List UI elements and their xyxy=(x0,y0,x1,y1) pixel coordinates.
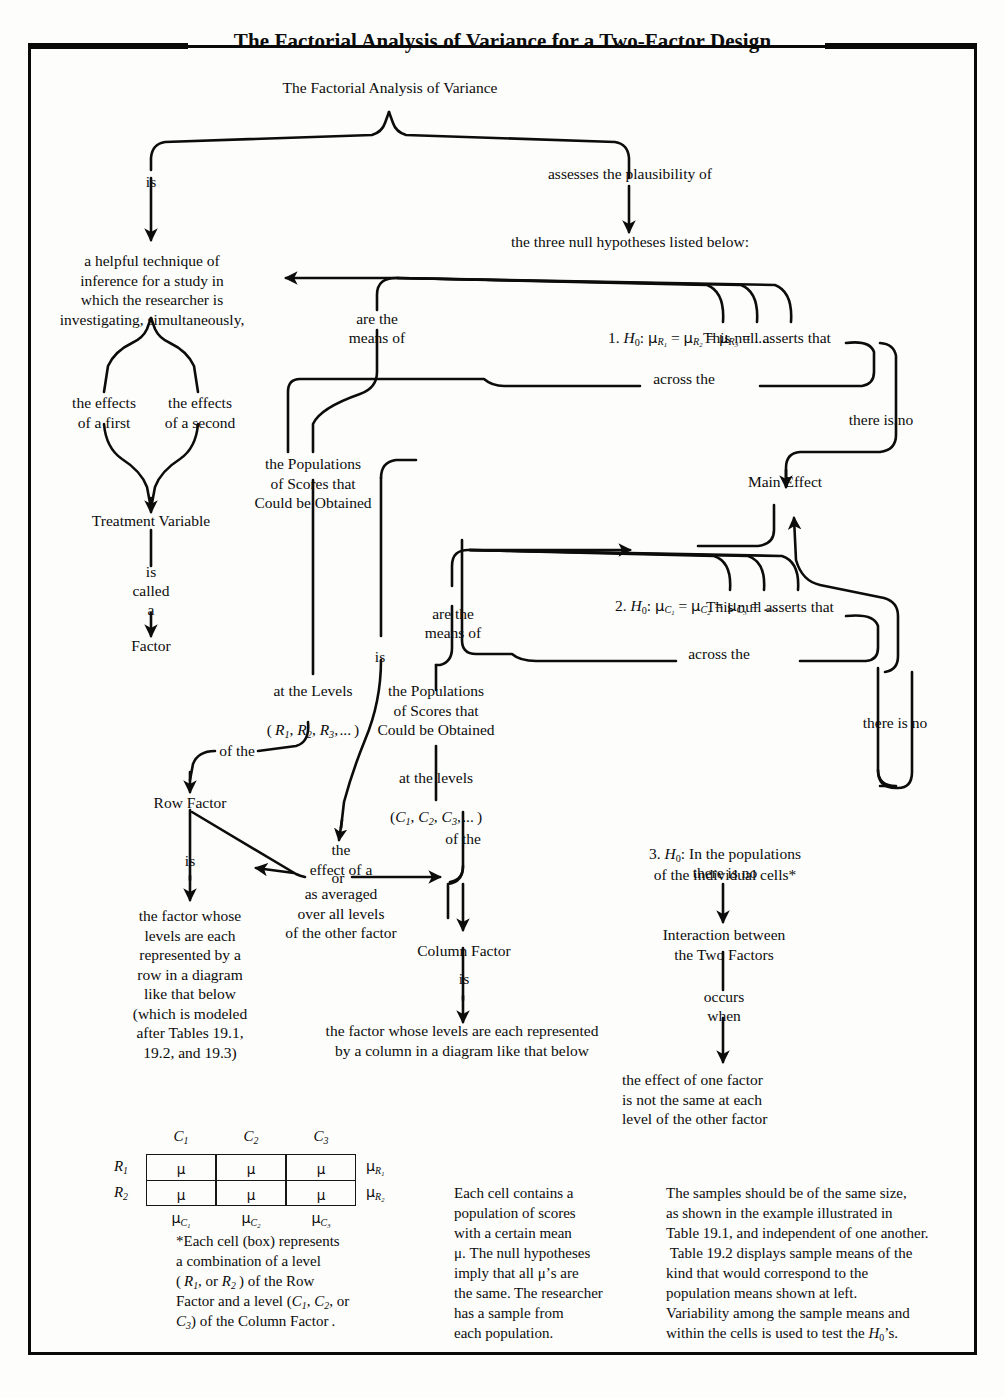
hypothesis-1-number: 1. xyxy=(608,329,624,346)
label-is-called-a: is called a xyxy=(126,563,176,620)
table-col-header-c3: C3 xyxy=(286,1128,356,1146)
node-root-label: The Factorial Analysis of Variance xyxy=(265,78,515,98)
node-as-averaged: as averaged over all levels of the other… xyxy=(270,884,412,943)
label-across-the-2: across the xyxy=(676,645,762,664)
page-root: The Factorial Analysis of Variance for a… xyxy=(0,0,1005,1397)
node-populations-rows: the Populations of Scores that Could be … xyxy=(237,454,389,513)
label-are-the-means-of-cols: are the means of xyxy=(409,605,497,643)
table-row-margin-r2: μR2 xyxy=(366,1184,414,1203)
label-assesses-plausibility: assesses the plausibility of xyxy=(497,165,763,184)
node-treatment-variable: Treatment Variable xyxy=(71,511,231,531)
label-occurs-when: occurs when xyxy=(687,988,761,1026)
at-the-levels-rows-values: ( R1, R2, R3, ... ) xyxy=(267,721,360,738)
at-the-levels-cols-values: (C1, C2, C3, ... ) xyxy=(390,808,482,825)
node-column-factor: Column Factor xyxy=(400,941,528,961)
label-h3-there-is-no: there is no xyxy=(676,864,774,883)
table-cell-r2c2: μ xyxy=(216,1187,286,1203)
node-at-the-levels-cols: at the levels (C1, C2, C3, ... ) xyxy=(360,768,512,829)
table-col-header-c2: C2 xyxy=(216,1128,286,1146)
label-there-is-no-2: there is no xyxy=(848,714,942,733)
table-cell-r1c1: μ xyxy=(146,1161,216,1177)
node-column-factor-definition: the factor whose levels are each represe… xyxy=(243,1021,681,1060)
label-is-column-factor: is xyxy=(446,970,482,989)
label-this-null-asserts-2: This null asserts that xyxy=(680,598,860,617)
table-col-header-c1: C1 xyxy=(146,1128,216,1146)
table-cell-r2c1: μ xyxy=(146,1187,216,1203)
hypothesis-2-number: 2. xyxy=(615,597,631,614)
table-cell-r2c3: μ xyxy=(286,1187,356,1203)
table-row-header-r1: R1 xyxy=(104,1158,138,1176)
label-of-the-row: of the xyxy=(214,742,260,761)
label-of-the-column: of the xyxy=(440,830,486,849)
table-hline-1 xyxy=(147,1180,355,1182)
table-cell-r1c2: μ xyxy=(216,1161,286,1177)
table-row-margin-r1: μR1 xyxy=(366,1158,414,1177)
node-row-factor: Row Factor xyxy=(128,793,252,813)
label-are-the-means-of-rows: are the means of xyxy=(333,310,421,348)
node-three-null-hypotheses: the three null hypotheses listed below: xyxy=(452,232,808,252)
label-there-is-no-1: there is no xyxy=(834,411,928,430)
hypothesis-3-number: 3. xyxy=(649,845,665,862)
node-effects-of-a-second: the effects of a second xyxy=(142,393,258,432)
note-each-cell-contains: Each cell contains a population of score… xyxy=(454,1184,644,1344)
note-samples-same-size: The samples should be of the same size,a… xyxy=(666,1184,986,1344)
table-col-margin-c2: μC2 xyxy=(216,1210,286,1229)
label-is-root: is xyxy=(129,173,173,192)
node-helpful-technique: a helpful technique of inference for a s… xyxy=(32,251,272,329)
table-row-header-r2: R2 xyxy=(104,1184,138,1202)
table-col-margin-c1: μC1 xyxy=(146,1210,216,1229)
table-cell-r1c3: μ xyxy=(286,1161,356,1177)
node-interaction: Interaction between the Two Factors xyxy=(633,925,815,964)
label-across-the-1: across the xyxy=(641,370,727,389)
node-at-the-levels-rows: at the Levels ( R1, R2, R3, ... ) xyxy=(237,681,389,742)
at-the-levels-rows-label: at the Levels xyxy=(273,682,352,699)
node-factor: Factor xyxy=(110,636,192,656)
node-main-effect: Main Effect xyxy=(705,472,865,492)
label-this-null-asserts-1: This null asserts that xyxy=(677,329,857,348)
at-the-levels-cols-label: at the levels xyxy=(399,769,473,786)
table-col-margin-c3: μC3 xyxy=(286,1210,356,1229)
footnote-star-note: *Each cell (box) representsa combination… xyxy=(176,1232,426,1332)
node-effect-one-factor: the effect of one factor is not the same… xyxy=(622,1070,828,1129)
label-is-center-spine: is xyxy=(362,648,398,667)
label-is-row-factor: is xyxy=(172,852,208,871)
